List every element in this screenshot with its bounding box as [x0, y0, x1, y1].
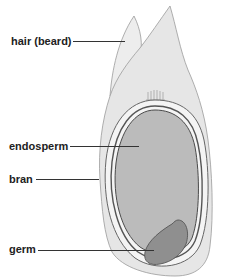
leader-line-endosperm [70, 146, 139, 147]
wheat-grain-diagram: hair (beard) endosperm bran germ [0, 0, 243, 280]
leader-line-bran [36, 179, 99, 180]
label-germ: germ [9, 243, 36, 255]
label-endosperm: endosperm [9, 140, 68, 152]
leader-line-hair [73, 41, 125, 42]
label-bran: bran [9, 173, 33, 185]
leader-line-germ [38, 250, 154, 251]
label-hair-beard: hair (beard) [11, 35, 72, 47]
